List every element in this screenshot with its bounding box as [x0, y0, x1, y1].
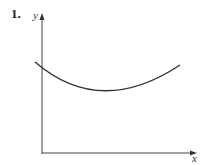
x-axis	[42, 151, 197, 156]
x-axis-arrow-icon	[190, 151, 197, 156]
y-axis-arrow-icon	[40, 13, 45, 20]
y-axis	[40, 13, 45, 154]
graph	[0, 0, 209, 165]
curve	[35, 62, 180, 91]
